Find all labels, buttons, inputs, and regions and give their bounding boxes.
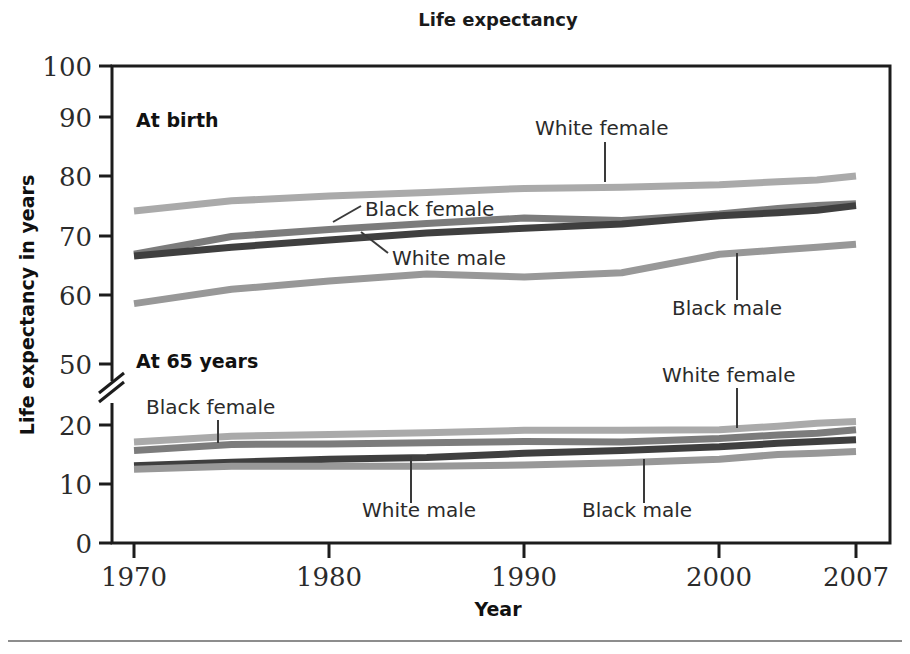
y-tick-10: 10 bbox=[59, 470, 92, 500]
y-tick-50: 50 bbox=[59, 350, 92, 380]
x-tick-1970: 1970 bbox=[101, 562, 167, 592]
y-tick-80: 80 bbox=[59, 162, 92, 192]
annotation-birth-black-male: Black male bbox=[672, 296, 782, 320]
x-tick-2007: 2007 bbox=[823, 562, 889, 592]
y-axis-title: Life expectancy in years bbox=[16, 175, 38, 435]
group-label-at-birth: At birth bbox=[136, 109, 219, 131]
annotation-age65-black-female: Black female bbox=[146, 395, 275, 419]
x-axis-title: Year bbox=[473, 598, 522, 620]
chart-svg: Life expectancy 100 90 80 70 60 50 20 10… bbox=[0, 0, 910, 654]
figure-background bbox=[0, 0, 910, 654]
annotation-birth-white-female: White female bbox=[535, 116, 668, 140]
y-tick-70: 70 bbox=[59, 222, 92, 252]
y-tick-60: 60 bbox=[59, 281, 92, 311]
y-tick-0: 0 bbox=[75, 529, 92, 559]
y-tick-90: 90 bbox=[59, 103, 92, 133]
x-tick-1990: 1990 bbox=[491, 562, 557, 592]
annotation-age65-black-male: Black male bbox=[582, 498, 692, 522]
annotation-age65-white-female: White female bbox=[662, 363, 795, 387]
x-tick-1980: 1980 bbox=[296, 562, 362, 592]
y-tick-100: 100 bbox=[42, 52, 92, 82]
chart-title: Life expectancy bbox=[418, 9, 578, 30]
life-expectancy-figure: Life expectancy 100 90 80 70 60 50 20 10… bbox=[0, 0, 910, 654]
group-label-at-65-years: At 65 years bbox=[136, 350, 258, 372]
annotation-age65-white-male: White male bbox=[362, 498, 476, 522]
annotation-birth-white-male: White male bbox=[392, 246, 506, 270]
x-tick-2000: 2000 bbox=[686, 562, 752, 592]
y-tick-20: 20 bbox=[59, 411, 92, 441]
annotation-birth-black-female: Black female bbox=[365, 197, 494, 221]
